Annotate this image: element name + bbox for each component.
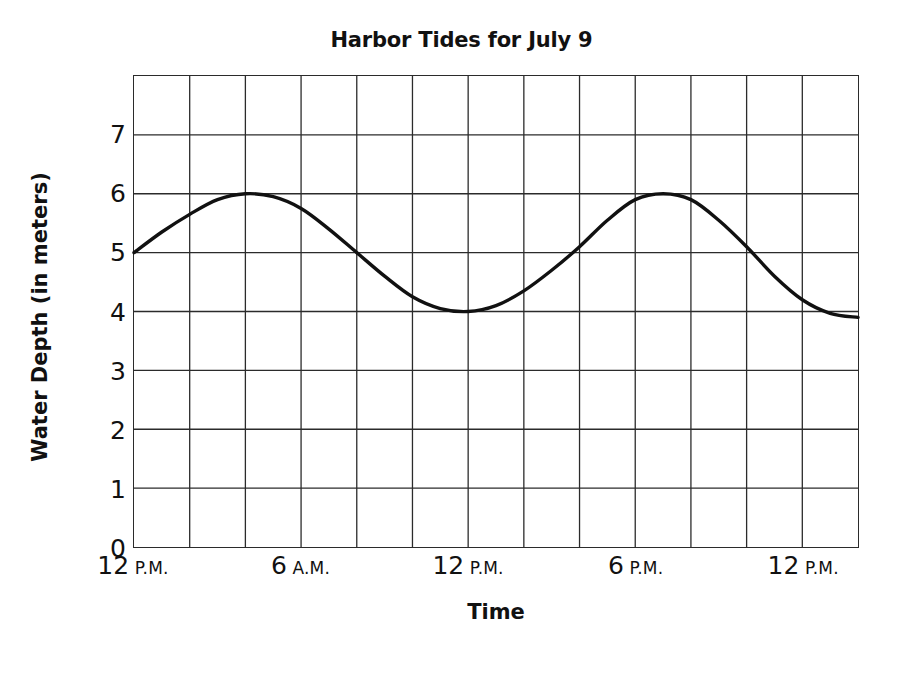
y-tick-2: 2 xyxy=(86,417,126,442)
x-tick-number: 6 xyxy=(608,551,624,580)
y-tick-5: 5 xyxy=(86,240,126,265)
chart-figure: Harbor Tides for July 9 Water Depth (in … xyxy=(0,0,923,674)
y-tick-4: 4 xyxy=(86,299,126,324)
x-tick-suffix: P.M. xyxy=(129,558,168,578)
x-tick-number: 6 xyxy=(271,551,287,580)
x-axis-tick-labels: 12 P.M.6 A.M.12 P.M.6 P.M.12 P.M. xyxy=(133,552,859,596)
y-tick-1: 1 xyxy=(86,476,126,501)
y-tick-3: 3 xyxy=(86,358,126,383)
chart-title: Harbor Tides for July 9 xyxy=(0,28,923,52)
y-tick-6: 6 xyxy=(86,181,126,206)
x-tick-2: 12 P.M. xyxy=(432,552,503,580)
tide-curve xyxy=(134,76,858,547)
x-tick-suffix: P.M. xyxy=(799,558,838,578)
x-tick-1: 6 A.M. xyxy=(271,552,330,580)
y-axis-title: Water Depth (in meters) xyxy=(28,127,52,507)
x-tick-number: 12 xyxy=(767,551,799,580)
x-tick-number: 12 xyxy=(432,551,464,580)
x-tick-4: 12 P.M. xyxy=(767,552,838,580)
y-tick-7: 7 xyxy=(86,122,126,147)
plot-area xyxy=(133,75,859,548)
x-tick-suffix: A.M. xyxy=(287,558,330,578)
x-tick-number: 12 xyxy=(97,551,129,580)
x-tick-suffix: P.M. xyxy=(624,558,663,578)
series-line-water-depth xyxy=(134,194,858,318)
x-tick-suffix: P.M. xyxy=(464,558,503,578)
x-tick-0: 12 P.M. xyxy=(97,552,168,580)
x-tick-3: 6 P.M. xyxy=(608,552,663,580)
x-axis-title: Time xyxy=(133,600,859,624)
y-axis-tick-labels: 76543210 xyxy=(78,75,126,548)
